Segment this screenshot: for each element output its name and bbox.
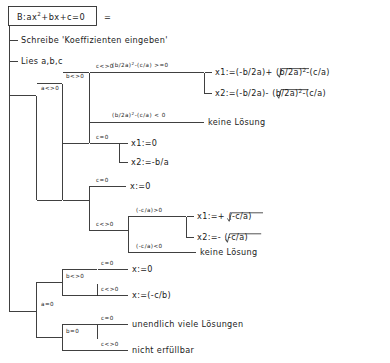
- action-x-zero-b: x:=0: [132, 264, 153, 274]
- condition-c-eq-0-top: c=0: [96, 134, 109, 140]
- condition-b-eq-0: b=0: [66, 328, 79, 334]
- condition-c-ne-0-group2: c<>0: [96, 221, 114, 227]
- condition-b-ne-0-upper: b<>0: [66, 73, 84, 79]
- condition-c-ne-0-beq: c<>0: [101, 341, 119, 347]
- action-keine-loesung-2: keine Lösung: [200, 247, 257, 257]
- header-box-label: B:ax2+bx+c=0: [17, 11, 85, 21]
- equals-sign: =: [104, 12, 111, 22]
- structure-tree-svg: B:ax2+bx+c=0 = Schreibe 'Koeffizienten e…: [0, 0, 390, 363]
- action-keine-loesung-1: keine Lösung: [208, 117, 265, 127]
- action-unendlich-viele-loesungen: unendlich viele Lösungen: [132, 319, 243, 329]
- condition-c-eq-0-beq: c=0: [101, 315, 114, 321]
- condition-a-eq-0: a=0: [41, 301, 54, 307]
- condition-disc-lt-0: (b/2a)2-(c/a) < 0: [112, 111, 166, 118]
- condition-c-eq-0-group2: c=0: [96, 177, 109, 183]
- condition-neg-ca-gt-0: (-c/a)>0: [136, 207, 163, 213]
- condition-c-eq-0-bne: c=0: [101, 260, 114, 266]
- condition-disc-ge-0: (b/2a)2-(c/a) >=0: [112, 61, 169, 68]
- action-x2-quadratic: x2:=(-b/2a)-(b/2a)2-(c/a): [215, 88, 326, 98]
- condition-a-ne-0: a<>0: [41, 85, 59, 91]
- action-nicht-erfuellbar: nicht erfüllbar: [132, 345, 194, 355]
- action-x2-minus-b-a: x2:=-b/a: [131, 157, 169, 167]
- diagram-canvas: B:ax2+bx+c=0 = Schreibe 'Koeffizienten e…: [0, 0, 390, 363]
- action-x1-zero: x1:=0: [131, 138, 157, 148]
- statement-lies: Lies a,b,c: [21, 56, 63, 66]
- action-x-minus-c-b: x:=(-c/b): [132, 290, 171, 300]
- condition-b-ne-0-lower: b<>0: [66, 273, 84, 279]
- action-x1-quadratic: x1:=(-b/2a)+(b/2a)2-(c/a): [215, 67, 330, 77]
- statement-schreibe: Schreibe 'Koeffizienten eingeben': [21, 35, 168, 45]
- action-x-zero-a: x:=0: [130, 181, 151, 191]
- condition-c-ne-0-bne: c<>0: [101, 286, 119, 292]
- condition-neg-ca-lt-0: (-c/a)<0: [136, 243, 163, 249]
